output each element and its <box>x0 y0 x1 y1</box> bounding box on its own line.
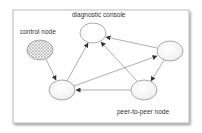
bottom-left-node <box>49 80 75 100</box>
peer-to-peer-node <box>131 80 157 100</box>
control-node-label: control node <box>20 28 56 35</box>
diagnostic-console-label: diagnostic console <box>72 11 126 19</box>
control-node <box>27 40 53 60</box>
network-diagram: diagnostic console control node peer-to-… <box>0 0 202 133</box>
right-node <box>157 41 183 61</box>
diagnostic-console-node <box>80 23 106 43</box>
peer-to-peer-node-label: peer-to-peer node <box>117 108 169 116</box>
